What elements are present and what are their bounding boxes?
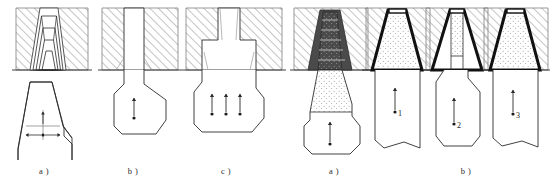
caption-right-a: a ): [314, 166, 354, 176]
figure-left-b: [90, 0, 190, 165]
billet-outline: [114, 70, 166, 134]
figure-left-c: [178, 0, 290, 165]
billet-stipple-zone: [310, 70, 352, 112]
throat-exit: [451, 56, 463, 70]
billet-outline: [436, 70, 480, 146]
diagram-sheet: a ) b ): [0, 0, 550, 196]
center-dot: [132, 116, 135, 119]
caption-right-b: b ): [446, 166, 486, 176]
die-throat: [507, 9, 524, 13]
number-label-1: 1: [398, 109, 402, 118]
deformation-zone: [451, 12, 463, 56]
billet-outline: [18, 82, 72, 160]
billet-outline: [493, 70, 538, 147]
die-channel: [124, 8, 144, 70]
die-throat: [450, 9, 464, 13]
figure-right-b3: 3: [482, 0, 550, 165]
figure-left-a: [0, 0, 100, 165]
caption-left-a: a ): [24, 166, 64, 176]
center-dot: [41, 133, 44, 136]
number-label-3: 3: [516, 111, 520, 120]
caption-left-b: b ): [113, 166, 153, 176]
figure-right-b2: 2: [424, 0, 490, 165]
billet-outline: [194, 70, 264, 132]
die-throat: [389, 9, 406, 13]
number-label-2: 2: [457, 121, 461, 130]
caption-left-c: c ): [206, 166, 246, 176]
